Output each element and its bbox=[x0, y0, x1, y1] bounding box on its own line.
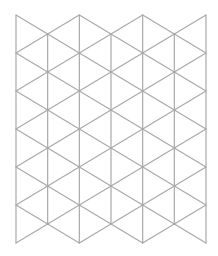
triangle-grid-diagram bbox=[0, 0, 218, 256]
